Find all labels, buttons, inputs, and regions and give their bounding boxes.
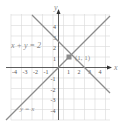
y-tick: 2 — [53, 45, 56, 51]
x-tick: -2 — [33, 69, 38, 75]
label-y-equals-x: y = x — [19, 105, 35, 113]
x-tick: 2 — [78, 69, 81, 75]
label-x-plus-y-equals-2: x + y = 2 — [10, 41, 41, 50]
line-x-plus-y-equals-2 — [32, 15, 110, 93]
y-tick: 4 — [53, 24, 56, 30]
coordinate-plane: x y -4 -3 -2 -1 1 2 3 4 4 3 2 1 -1 -2 -3… — [0, 0, 123, 125]
intersection-point — [67, 55, 72, 60]
x-tick: -4 — [12, 69, 17, 75]
x-axis-arrow-icon — [107, 66, 112, 70]
x-axis-label: x — [113, 63, 118, 72]
y-tick: 1 — [53, 56, 56, 62]
x-tick: -3 — [23, 69, 28, 75]
y-tick: -2 — [51, 87, 56, 93]
y-tick: -4 — [51, 108, 56, 114]
x-tick: 1 — [67, 69, 70, 75]
label-intersection: (1, 1) — [75, 54, 91, 62]
y-tick: -3 — [51, 97, 56, 103]
x-tick: -1 — [44, 69, 49, 75]
y-axis-label: y — [53, 3, 58, 12]
x-tick: 4 — [99, 69, 102, 75]
y-tick: -1 — [51, 76, 56, 82]
